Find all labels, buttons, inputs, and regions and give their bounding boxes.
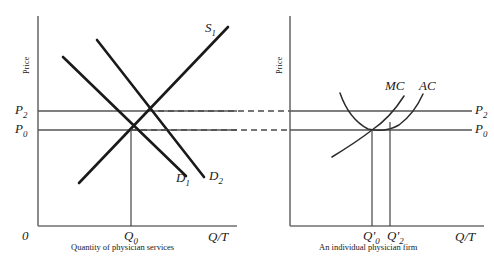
market-x-axis-title: Q/T xyxy=(208,229,228,245)
firm-panel-guides xyxy=(372,122,390,226)
economics-figure: Price P2 P0 0 Q0 Q/T S1 D1 D2 Quantity o… xyxy=(0,0,494,261)
market-origin-label: 0 xyxy=(22,229,29,242)
market-y-axis-title: Price xyxy=(22,57,31,74)
s1-sub: 1 xyxy=(212,28,216,38)
firm-q2-base: Q xyxy=(387,228,396,243)
d2-base: D xyxy=(209,168,218,183)
market-p2-sub: 2 xyxy=(23,110,27,120)
market-p2-base: P xyxy=(15,102,23,117)
firm-panel-curves xyxy=(332,93,423,157)
figure-canvas xyxy=(0,0,494,261)
firm-p2-base: P xyxy=(475,102,483,117)
supply-curve-label-s1: S1 xyxy=(205,21,216,37)
demand-curve-label-d2: D2 xyxy=(209,169,223,185)
firm-y-axis-title: Price xyxy=(275,57,284,74)
firm-price-label-p0: P0 xyxy=(475,122,487,138)
marginal-cost-label-mc: MC xyxy=(385,79,405,92)
average-cost-label-ac: AC xyxy=(419,79,436,92)
d1-sub: 1 xyxy=(185,178,189,188)
market-p0-base: P xyxy=(15,121,23,136)
market-price-label-p2: P2 xyxy=(15,103,27,119)
firm-panel-price-lines xyxy=(290,111,472,130)
market-panel-curves xyxy=(63,27,228,183)
supply-curve-s1 xyxy=(79,27,228,183)
firm-panel-axes xyxy=(290,16,484,226)
firm-price-label-p2: P2 xyxy=(475,103,487,119)
firm-q0-base: Q xyxy=(363,228,372,243)
d1-base: D xyxy=(176,170,185,185)
firm-p0-base: P xyxy=(475,121,483,136)
demand-curve-d2 xyxy=(97,40,204,177)
firm-p2-sub: 2 xyxy=(483,110,487,120)
market-p0-sub: 0 xyxy=(23,129,27,139)
market-panel-caption: Quantity of physician services xyxy=(71,242,174,252)
market-q0-base: Q xyxy=(124,228,133,243)
market-price-label-p0: P0 xyxy=(15,122,27,138)
demand-curve-label-d1: D1 xyxy=(176,171,190,187)
firm-p0-sub: 0 xyxy=(483,129,487,139)
d2-sub: 2 xyxy=(218,176,222,186)
firm-x-axis-title: Q/T xyxy=(455,229,475,245)
marginal-cost-curve-mc xyxy=(332,96,404,157)
firm-panel-caption: An individual physician firm xyxy=(319,242,417,252)
